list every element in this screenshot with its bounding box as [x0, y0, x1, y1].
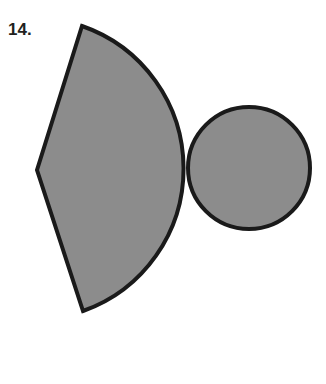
- sector-shape: [37, 26, 184, 311]
- cone-net-figure: [0, 0, 326, 384]
- base-circle: [188, 107, 310, 229]
